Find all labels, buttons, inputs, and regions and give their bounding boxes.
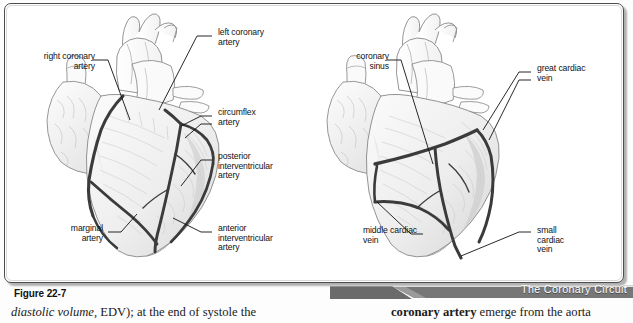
label-marginal-artery: marginal artery [31, 224, 103, 243]
label-middle-cardiac-vein: small cardiac vein [537, 226, 623, 255]
label-left-coronary-artery: left coronary artery [218, 28, 310, 47]
body-right-bold: coronary artery [391, 305, 476, 319]
section-banner: The Coronary Circuit [330, 280, 633, 299]
label-great-cardiac-vein: great cardiac vein [537, 64, 623, 83]
label-anterior-interventricular-artery: anterior interventricular artery [218, 224, 310, 253]
body-text-right-column: coronary artery emerge from the aorta [391, 305, 591, 320]
label-circumflex-artery: circumflex artery [218, 108, 310, 127]
body-right-rest: emerge from the aorta [476, 305, 590, 319]
body-left-rest: EDV); at the end of systole the [97, 305, 256, 319]
figure-frame: right coronary artery left coronary arte… [4, 3, 624, 283]
anterior-view-coronary-arteries: right coronary artery left coronary arte… [5, 4, 315, 282]
body-text-left-column: diastolic volume, EDV); at the end of sy… [11, 305, 256, 320]
label-posterior-interventricular-artery: posterior interventricular artery [218, 152, 310, 181]
textbook-page: right coronary artery left coronary arte… [0, 0, 633, 323]
label-coronary-sinus: coronary sinus [329, 52, 389, 71]
banner-title: The Coronary Circuit [521, 282, 627, 297]
posterior-view-cardiac-veins: coronary sinus great cardiac vein small … [315, 4, 623, 282]
body-left-italic: diastolic volume, [11, 305, 97, 319]
label-small-cardiac-vein: middle cardiac vein [363, 226, 425, 245]
label-right-coronary-artery: right coronary artery [17, 52, 95, 71]
figure-caption: Figure 22-7 [14, 288, 66, 299]
